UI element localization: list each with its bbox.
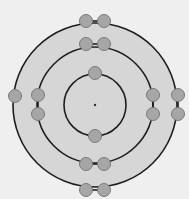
electron-shell-3: [172, 89, 185, 102]
electron-shell-3: [172, 108, 185, 121]
electron-shell-1: [89, 130, 102, 143]
electron-shell-3: [9, 90, 22, 103]
electron-shell-2: [80, 38, 93, 51]
electron-shell-2: [147, 89, 160, 102]
electron-shell-3: [98, 184, 111, 197]
electron-shell-3: [98, 15, 111, 28]
electron-shell-2: [80, 158, 93, 171]
electron-shell-2: [147, 108, 160, 121]
nucleus: [94, 104, 96, 106]
electron-shell-3: [80, 184, 93, 197]
electron-shell-2: [98, 38, 111, 51]
electron-shell-2: [32, 108, 45, 121]
electron-shell-3: [80, 15, 93, 28]
electron-shell-2: [32, 89, 45, 102]
atom-diagram: [0, 0, 189, 199]
electron-shell-1: [89, 67, 102, 80]
electron-shell-2: [98, 158, 111, 171]
